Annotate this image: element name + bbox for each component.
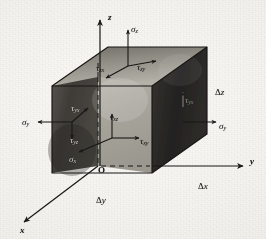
stress-label-tau-yx-right: τyx [185, 96, 193, 106]
stress-label-tau-yz: τyz [70, 136, 78, 146]
stress-element-figure: z y x O σz τzx τzy σy τyx τyz σx τxz τxy… [0, 0, 266, 239]
dimension-label-delta-x: Δx [198, 182, 208, 191]
dimension-label-delta-z: Δz [215, 88, 224, 97]
stress-label-tau-xz: τxz [110, 113, 118, 123]
stress-label-tau-zy: τzy [137, 63, 145, 73]
diagram-canvas [0, 0, 266, 239]
axis-x [24, 166, 98, 222]
stress-label-tau-yx: τyx [71, 104, 79, 114]
stress-label-sigma-y-left: σy [22, 118, 29, 128]
stress-label-sigma-y-right: σy [219, 122, 226, 132]
stress-label-sigma-z: σz [131, 25, 138, 35]
axis-label-x: x [20, 226, 25, 235]
dimension-label-delta-y: Δy [96, 196, 106, 205]
axis-label-z: z [108, 13, 112, 22]
stress-label-sigma-x: σx [69, 155, 76, 165]
axis-label-y: y [250, 157, 254, 166]
stress-label-tau-zx: τzx [96, 64, 104, 74]
stress-label-tau-xy: τxy [140, 137, 148, 147]
origin-label: O [98, 166, 105, 175]
